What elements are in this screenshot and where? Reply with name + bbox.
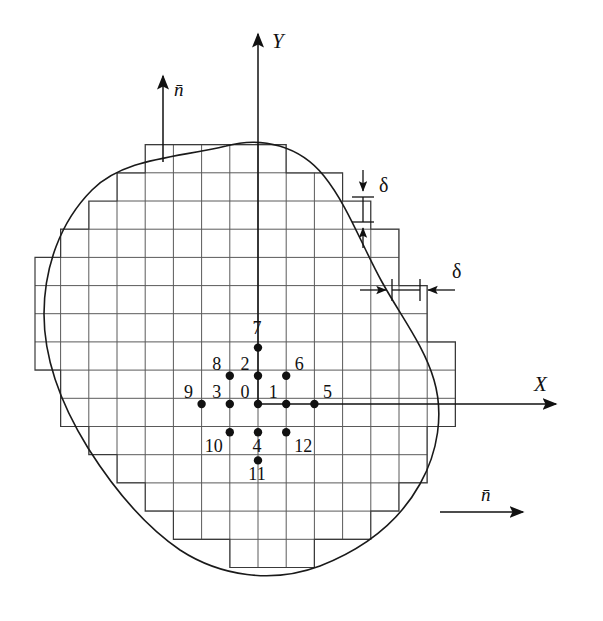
stencil-node-1[interactable] (282, 400, 290, 408)
horizontal-spacing-marker (360, 279, 455, 301)
stencil-node-label-7: 7 (253, 318, 262, 338)
stencil-node-label-3: 3 (212, 382, 221, 402)
stencil-node-label-8: 8 (212, 354, 221, 374)
y-axis-label: Y (272, 29, 286, 53)
coordinate-axes: Y X (258, 29, 556, 404)
finite-difference-grid-figure: Y X n̄ n̄ δ δ 0123 (0, 0, 603, 621)
delta-vertical-label: δ (379, 174, 388, 196)
stencil-node-label-2: 2 (241, 354, 250, 374)
stencil-node-12[interactable] (282, 428, 290, 436)
stencil-node-label-4: 4 (253, 436, 262, 456)
stencil-node-label-11: 11 (248, 464, 265, 484)
stencil-node-9[interactable] (197, 400, 205, 408)
stencil-node-label-6: 6 (295, 354, 304, 374)
diagram-canvas: Y X n̄ n̄ δ δ 0123 (0, 0, 603, 621)
stencil-node-7[interactable] (254, 343, 262, 351)
stencil-node-label-9: 9 (184, 382, 193, 402)
stencil-node-11[interactable] (254, 456, 262, 464)
normal-vector-right-label: n̄ (481, 484, 491, 505)
normal-vector-top-label: n̄ (174, 79, 184, 100)
stencil-node-10[interactable] (226, 428, 234, 436)
stencil-node-3[interactable] (226, 400, 234, 408)
stencil-node-8[interactable] (226, 372, 234, 380)
stencil-node-5[interactable] (310, 400, 318, 408)
delta-horizontal-label: δ (452, 260, 461, 282)
stencil-node-2[interactable] (254, 372, 262, 380)
stencil-node-4[interactable] (254, 428, 262, 436)
stencil-node-label-5: 5 (323, 382, 332, 402)
stencil-node-6[interactable] (282, 372, 290, 380)
stencil-node-label-0: 0 (241, 382, 250, 402)
stencil-node-label-1: 1 (269, 382, 278, 402)
stencil-node-label-10: 10 (205, 436, 223, 456)
stencil-node-label-12: 12 (294, 436, 312, 456)
x-axis-label: X (533, 372, 548, 396)
stencil-node-0[interactable] (254, 400, 262, 408)
